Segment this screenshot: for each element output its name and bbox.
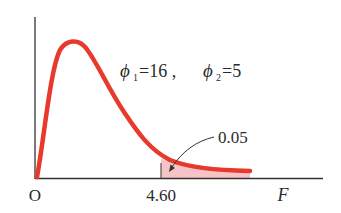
x-axis-label: F [277, 185, 290, 205]
tail-area-label: 0.05 [218, 128, 248, 147]
phi2-value: =5 [222, 61, 241, 81]
phi1-symbol: ϕ [120, 60, 130, 81]
phi1-value: =16 , [139, 61, 176, 81]
phi1-subscript: 1 [133, 72, 138, 83]
origin-label: O [29, 186, 41, 205]
critical-value-label: 4.60 [146, 186, 176, 205]
parameter-annotation: ϕ 1 =16 , ϕ 2 =5 [120, 60, 241, 83]
phi2-subscript: 2 [216, 72, 221, 83]
phi2-symbol: ϕ [203, 60, 213, 81]
f-distribution-chart: O 4.60 F 0.05 ϕ 1 =16 , ϕ 2 =5 [0, 0, 341, 213]
